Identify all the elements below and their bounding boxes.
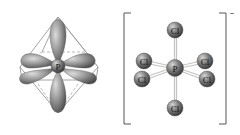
cl-lower-right: Cl bbox=[199, 71, 215, 87]
cl-upper-left: Cl bbox=[136, 53, 152, 69]
lobe-bottom bbox=[50, 70, 66, 113]
lobe-lower-left bbox=[20, 68, 56, 84]
atom-label-cl: Cl bbox=[171, 104, 180, 114]
ion-structure-figure: – Cl Cl Cl Cl bbox=[124, 8, 235, 124]
atom-label-cl: Cl bbox=[138, 75, 147, 85]
atom-label-cl: Cl bbox=[171, 26, 180, 36]
atom-label-p: P bbox=[172, 64, 177, 74]
diagram-canvas: P – Cl Cl bbox=[0, 0, 240, 135]
atom-label-cl: Cl bbox=[140, 57, 149, 67]
cl-lower-left: Cl bbox=[134, 71, 150, 87]
cl-top: Cl bbox=[167, 22, 183, 38]
bracket-right bbox=[219, 13, 226, 124]
bracket-left bbox=[124, 13, 131, 124]
hybrid-orbital-figure: P bbox=[20, 17, 98, 113]
lobe-upper-right bbox=[60, 54, 95, 68]
lobe-lower-right bbox=[60, 68, 96, 84]
phosphorus-center: P bbox=[167, 60, 184, 77]
atom-label-p: P bbox=[55, 62, 60, 72]
charge-sign: – bbox=[230, 8, 235, 18]
cl-upper-right: Cl bbox=[197, 53, 213, 69]
atom-label-cl: Cl bbox=[201, 57, 210, 67]
lobe-upper-left bbox=[21, 54, 56, 68]
atom-label-cl: Cl bbox=[203, 75, 212, 85]
cl-bottom: Cl bbox=[167, 100, 183, 116]
lobe-top bbox=[50, 20, 66, 65]
